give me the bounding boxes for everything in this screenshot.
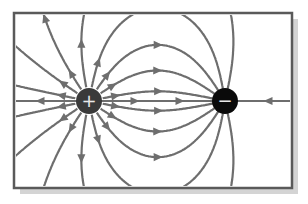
positive-charge: +: [76, 88, 102, 114]
negative-charge: −: [212, 88, 238, 114]
plus-sign: +: [81, 90, 96, 111]
electric-field-diagram: + −: [0, 0, 308, 204]
minus-sign: −: [217, 90, 232, 111]
